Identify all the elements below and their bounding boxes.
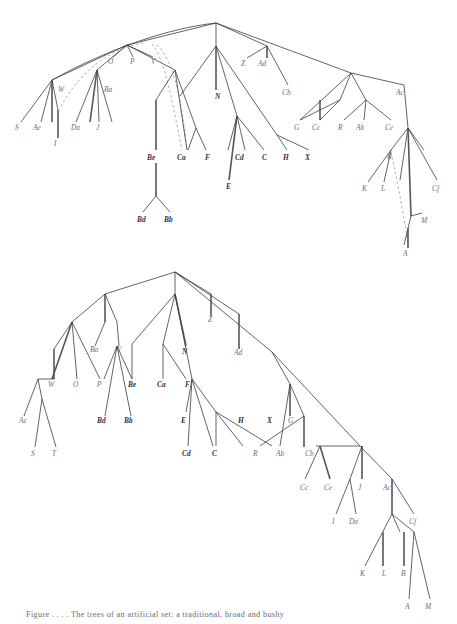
tree-top-label: E <box>225 182 231 191</box>
tree-bottom-label: T <box>52 449 57 458</box>
tree-bottom-label: Ce <box>324 483 333 492</box>
tree-top-label: H <box>282 153 289 162</box>
tree-top-label: F <box>205 153 210 162</box>
tree-top-label: Cb <box>282 88 291 97</box>
tree-bottom-label: I <box>331 517 335 526</box>
tree-bottom-label: L <box>381 569 386 578</box>
tree-top-edges <box>21 23 437 248</box>
tree-bottom-labels: Ba V Z N Ad W O P Be Ca F Ae Bd Bb E H X… <box>18 315 432 611</box>
tree-bottom-label: H <box>237 416 244 425</box>
tree-bottom-label: O <box>73 380 79 389</box>
tree-bottom-label: Cb <box>305 449 314 458</box>
tree-top-label: A <box>402 249 408 258</box>
tree-top-label: B <box>387 152 392 161</box>
tree-bottom-label: Be <box>127 380 137 389</box>
tree-bottom: Ba V Z N Ad W O P Be Ca F Ae Bd Bb E H X… <box>0 264 457 614</box>
tree-bottom-label: V <box>117 345 123 354</box>
tree-top-label: C <box>262 153 267 162</box>
tree-top-label: J <box>96 123 100 132</box>
tree-top-label: Ce <box>385 123 394 132</box>
tree-bottom-label: Bd <box>96 416 106 425</box>
tree-top-label: Ca <box>177 153 186 162</box>
tree-top-label: Ac <box>395 88 405 97</box>
tree-bottom-label: Cd <box>182 449 191 458</box>
tree-top-label: S <box>15 123 19 132</box>
tree-top-label: G <box>294 123 300 132</box>
tree-top: S Ae I W Da J Ba O P V Be Ca F N Cd C E … <box>0 0 457 264</box>
tree-bottom-label: Ae <box>18 416 28 425</box>
tree-bottom-label: K <box>359 569 366 578</box>
tree-bottom-label: Bb <box>123 416 133 425</box>
tree-top-label: W <box>58 85 65 94</box>
tree-top-be-subtree <box>143 163 170 212</box>
tree-top-label: Be <box>146 153 156 162</box>
tree-bottom-label: W <box>48 380 55 389</box>
tree-bottom-label: Ad <box>233 348 243 357</box>
tree-bottom-label: R <box>252 449 258 458</box>
tree-top-label: L <box>380 184 385 193</box>
tree-bottom-label: X <box>266 416 273 425</box>
tree-bottom-label: G <box>288 416 294 425</box>
tree-bottom-label: S <box>31 449 35 458</box>
tree-top-label: R <box>337 123 343 132</box>
tree-bottom-label: F <box>185 380 190 389</box>
tree-top-label: Ae <box>32 123 42 132</box>
tree-bottom-label: C <box>212 449 217 458</box>
figure-page: S Ae I W Da J Ba O P V Be Ca F N Cd C E … <box>0 0 457 624</box>
tree-bottom-label: Ac <box>382 483 392 492</box>
tree-bottom-edges <box>24 272 430 599</box>
tree-top-label: X <box>304 153 311 162</box>
tree-bottom-label: J <box>358 483 362 492</box>
tree-top-label: Ba <box>104 85 113 94</box>
tree-top-label: Z <box>241 59 246 68</box>
tree-top-label: Cf <box>432 184 440 193</box>
tree-bottom-label: N <box>181 347 188 356</box>
tree-top-label: Bd <box>136 215 146 224</box>
tree-top-label: Da <box>70 123 80 132</box>
tree-top-label: K <box>361 184 368 193</box>
tree-bottom-label: Cf <box>409 517 417 526</box>
tree-top-label: Ab <box>355 123 365 132</box>
tree-bottom-label: Cc <box>300 483 309 492</box>
tree-top-label: M <box>420 216 428 225</box>
tree-bottom-label: Ca <box>157 380 166 389</box>
tree-top-label: N <box>214 92 221 101</box>
tree-top-labels: S Ae I W Da J Ba O P V Be Ca F N Cd C E … <box>15 57 440 258</box>
tree-top-label: Cc <box>312 123 321 132</box>
tree-bottom-label: E <box>180 416 186 425</box>
tree-bottom-label: P <box>96 380 102 389</box>
tree-top-label: Cd <box>235 153 244 162</box>
tree-top-label: P <box>129 57 135 66</box>
tree-top-label: O <box>108 57 114 66</box>
tree-bottom-label: Z <box>208 315 213 324</box>
tree-bottom-label: Da <box>348 517 358 526</box>
figure-caption: Figure . . . . The trees of an artificia… <box>0 610 457 624</box>
tree-top-label: I <box>53 139 57 148</box>
tree-bottom-label: Ba <box>90 345 99 354</box>
tree-bottom-label: Ab <box>275 449 285 458</box>
tree-top-label: Bb <box>163 215 173 224</box>
tree-bottom-label: B <box>401 569 406 578</box>
tree-top-label: V <box>151 57 157 66</box>
tree-top-label: Ad <box>257 59 267 68</box>
